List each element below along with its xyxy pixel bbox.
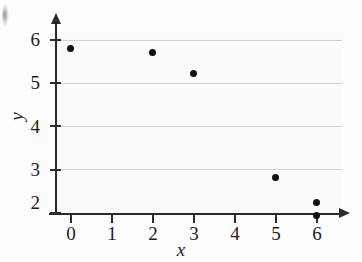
data-point xyxy=(313,212,320,219)
y-axis-tick xyxy=(50,82,61,84)
x-axis-tick xyxy=(193,214,195,223)
y-axis-line xyxy=(55,22,57,215)
scatter-plot-figure: 6 5 4 3 2 0 1 2 3 4 5 6 x y xyxy=(0,0,362,262)
y-axis-tick-label: 6 xyxy=(20,30,40,49)
x-axis-tick xyxy=(70,214,72,223)
data-point xyxy=(190,70,197,77)
gridline-y xyxy=(57,40,342,41)
x-axis-tick xyxy=(152,214,154,223)
y-axis-title: y xyxy=(7,112,26,120)
data-point xyxy=(272,174,279,181)
x-axis-tick xyxy=(111,214,113,223)
y-axis-tick xyxy=(50,212,61,214)
x-axis-title: x xyxy=(0,240,362,259)
plot-panel xyxy=(57,36,342,214)
x-axis-tick xyxy=(234,214,236,223)
gridline-y xyxy=(57,126,342,127)
data-point xyxy=(67,45,74,52)
y-axis-tick xyxy=(50,39,61,41)
x-axis-tick xyxy=(275,214,277,223)
y-axis-tick xyxy=(50,169,61,171)
y-axis-tick-label: 5 xyxy=(20,73,40,92)
scan-artifact xyxy=(2,4,9,26)
data-point xyxy=(313,199,320,206)
x-axis-line xyxy=(49,213,341,215)
y-axis-tick xyxy=(50,125,61,127)
y-axis-tick-label: 3 xyxy=(20,160,40,179)
gridline-y xyxy=(57,169,342,170)
gridline-y xyxy=(57,83,342,84)
data-point xyxy=(149,49,156,56)
x-axis-arrow-icon xyxy=(339,208,350,218)
y-axis-tick-label: 2 xyxy=(20,193,40,212)
y-axis-arrow-icon xyxy=(51,13,61,24)
